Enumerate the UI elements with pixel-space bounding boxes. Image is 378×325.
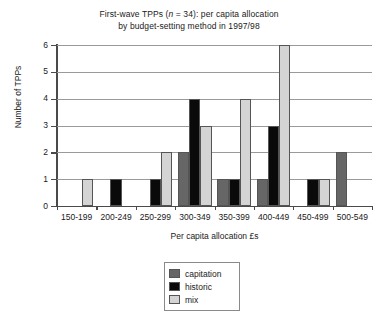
x-tick-mark-1 (96, 206, 97, 210)
x-tick-label-500-549: 500-549 (324, 212, 378, 222)
x-tick-mark-8 (372, 206, 373, 210)
y-tick-mark-0 (51, 206, 56, 207)
x-tick-mark-2 (136, 206, 137, 210)
chart-title: First-wave TPPs (n = 34): per capita all… (0, 9, 378, 32)
bar-historic-300-349 (189, 99, 200, 206)
legend-label-historic: historic (185, 282, 212, 292)
x-tick-mark-4 (215, 206, 216, 210)
bar-historic-350-399 (229, 179, 240, 206)
bar-historic-200-249 (110, 179, 121, 206)
bar-capitation-300-349 (178, 152, 189, 206)
chart-title-line-2: by budget-setting method in 1997/98 (0, 21, 378, 33)
y-tick-mark-1 (51, 179, 56, 180)
x-tick-mark-5 (254, 206, 255, 210)
bar-historic-400-449 (268, 126, 279, 207)
bar-mix-350-399 (240, 99, 251, 206)
legend-label-capitation: capitation (185, 269, 221, 279)
y-tick-mark-6 (51, 45, 56, 46)
y-tick-label-4: 4 (32, 93, 48, 103)
bar-mix-400-449 (279, 45, 290, 206)
bar-historic-250-299 (150, 179, 161, 206)
bar-mix-150-199 (82, 179, 93, 206)
bar-mix-450-499 (319, 179, 330, 206)
y-tick-label-0: 0 (32, 201, 48, 211)
x-tick-mark-0 (57, 206, 58, 210)
x-axis-label: Per capita allocation £s (57, 231, 372, 241)
plot-bars (57, 45, 372, 206)
legend-swatch-mix (169, 295, 180, 304)
y-tick-label-1: 1 (32, 174, 48, 184)
y-tick-label-6: 6 (32, 40, 48, 50)
y-tick-mark-2 (51, 152, 56, 153)
legend-label-mix: mix (185, 295, 198, 305)
y-axis-label: Number of TPPs (13, 32, 23, 162)
legend-item-capitation: capitation (169, 267, 234, 280)
legend-item-mix: mix (169, 293, 234, 306)
chart-title-line-1-post: = 34): per capita allocation (173, 9, 278, 19)
legend-swatch-capitation (169, 269, 180, 278)
chart-title-line-1: First-wave TPPs (n = 34): per capita all… (0, 9, 378, 21)
y-tick-label-5: 5 (32, 66, 48, 76)
bar-capitation-350-399 (217, 179, 228, 206)
y-tick-label-3: 3 (32, 120, 48, 130)
y-tick-mark-3 (51, 126, 56, 127)
y-tick-mark-5 (51, 72, 56, 73)
bar-historic-450-499 (307, 179, 318, 206)
y-tick-mark-4 (51, 99, 56, 100)
chart-legend: capitation historic mix (164, 262, 240, 311)
bar-mix-250-299 (161, 152, 172, 206)
chart-title-line-1-pre: First-wave TPPs ( (99, 9, 168, 19)
bar-chart: First-wave TPPs (n = 34): per capita all… (0, 0, 378, 325)
x-tick-mark-6 (293, 206, 294, 210)
bar-mix-300-349 (200, 126, 211, 207)
bar-capitation-400-449 (257, 179, 268, 206)
x-tick-mark-3 (175, 206, 176, 210)
legend-item-historic: historic (169, 280, 234, 293)
legend-swatch-historic (169, 282, 180, 291)
x-tick-mark-7 (333, 206, 334, 210)
bar-capitation-500-549 (336, 152, 347, 206)
y-tick-label-2: 2 (32, 147, 48, 157)
